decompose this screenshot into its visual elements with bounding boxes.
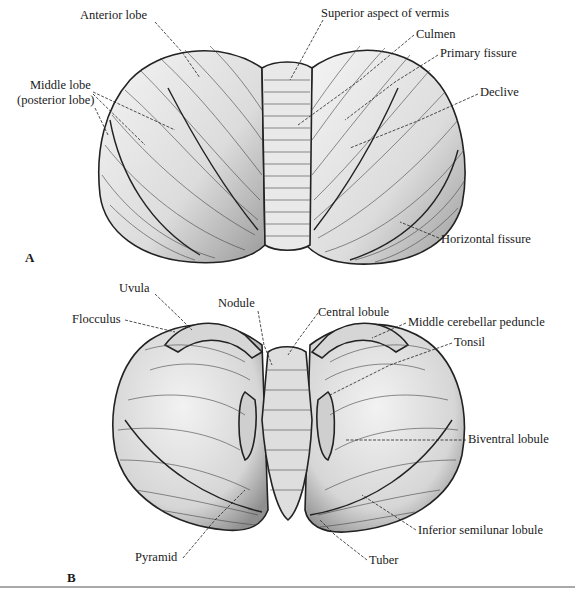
panel-letter-b: B <box>67 570 76 585</box>
label-superior-vermis: Superior aspect of vermis <box>321 6 449 20</box>
leader-uvula <box>155 294 192 330</box>
left-hemisphere-superior <box>99 51 265 263</box>
label-middle-cerebellar-peduncle: Middle cerebellar peduncle <box>408 315 545 329</box>
label-horizontal-fissure: Horizontal fissure <box>441 232 531 246</box>
label-central-lobule: Central lobule <box>318 305 390 319</box>
label-pyramid: Pyramid <box>135 550 178 564</box>
label-tonsil: Tonsil <box>454 335 486 349</box>
label-tuber: Tuber <box>369 553 399 567</box>
label-declive: Declive <box>480 85 519 99</box>
label-biventral-lobule: Biventral lobule <box>468 432 549 446</box>
panel-b-inferior-view: Uvula Nodule Central lobule Flocculus Mi… <box>67 281 549 585</box>
panel-a-superior-view: Anterior lobe Superior aspect of vermis … <box>17 6 531 265</box>
label-culmen: Culmen <box>416 27 456 41</box>
label-middle-lobe: Middle lobe <box>30 78 91 92</box>
panel-letter-a: A <box>25 250 35 265</box>
label-primary-fissure: Primary fissure <box>440 46 517 60</box>
inferior-vermis <box>262 347 312 520</box>
label-uvula: Uvula <box>119 281 150 295</box>
label-flocculus: Flocculus <box>72 312 121 326</box>
superior-vermis <box>262 62 312 250</box>
cerebellum-figure: Anterior lobe Superior aspect of vermis … <box>0 0 575 595</box>
label-posterior-lobe: (posterior lobe) <box>17 93 94 107</box>
label-inferior-semilunar-lobule: Inferior semilunar lobule <box>418 523 543 537</box>
label-nodule: Nodule <box>218 296 255 310</box>
leader-flocculus <box>125 320 175 332</box>
label-anterior-lobe: Anterior lobe <box>80 8 147 22</box>
